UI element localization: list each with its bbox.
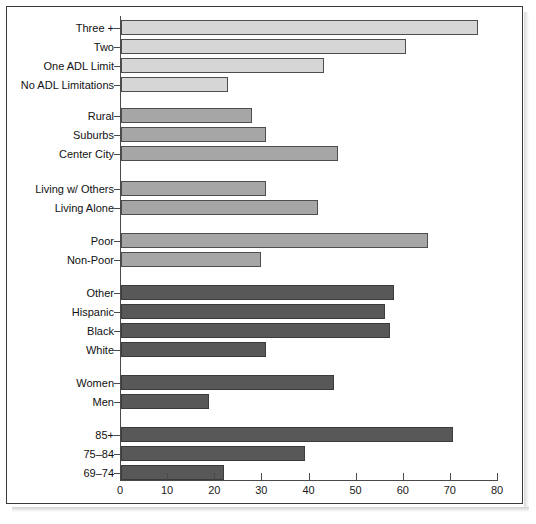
y-axis-tick xyxy=(114,47,120,48)
y-axis-tick xyxy=(114,189,120,190)
y-axis-label: Women xyxy=(2,377,114,389)
y-axis-tick xyxy=(114,154,120,155)
y-axis-label: Poor xyxy=(2,235,114,247)
y-axis-tick xyxy=(114,312,120,313)
x-axis-tick xyxy=(261,473,262,480)
x-axis-tick-label: 30 xyxy=(241,483,281,497)
bar xyxy=(121,146,338,161)
y-axis-tick xyxy=(114,383,120,384)
y-axis-label: Center City xyxy=(2,148,114,160)
x-axis-tick-label: 60 xyxy=(383,483,423,497)
y-axis-label: Black xyxy=(2,325,114,337)
x-axis-tick-label: 40 xyxy=(289,483,329,497)
x-axis-tick xyxy=(167,473,168,480)
x-axis-tick xyxy=(120,473,121,480)
x-axis-tick-label: 70 xyxy=(430,483,470,497)
x-axis-tick xyxy=(356,473,357,480)
x-axis-line xyxy=(120,480,498,481)
x-axis-tick-label: 80 xyxy=(477,483,517,497)
y-axis-label: 75–84 xyxy=(2,448,114,460)
y-axis-tick xyxy=(114,135,120,136)
y-axis-tick xyxy=(114,208,120,209)
chart-figure: Three +TwoOne ADL LimitNo ADL Limitation… xyxy=(0,0,536,524)
y-axis-label: Other xyxy=(2,287,114,299)
bar xyxy=(121,108,252,123)
bar xyxy=(121,304,385,319)
y-axis-tick xyxy=(114,454,120,455)
bar xyxy=(121,323,390,338)
x-axis-tick xyxy=(497,473,498,480)
bar xyxy=(121,446,305,461)
y-axis-label: Rural xyxy=(2,110,114,122)
x-axis-tick xyxy=(450,473,451,480)
y-axis-label: White xyxy=(2,344,114,356)
y-axis-label: Living w/ Others xyxy=(2,183,114,195)
y-axis-tick xyxy=(114,66,120,67)
bar xyxy=(121,233,428,248)
y-axis-tick xyxy=(114,350,120,351)
page-shadow-right xyxy=(524,12,529,507)
bar xyxy=(121,427,453,442)
bar xyxy=(121,58,324,73)
y-axis-tick xyxy=(114,402,120,403)
bar xyxy=(121,375,334,390)
x-axis-tick xyxy=(403,473,404,480)
y-axis-label: One ADL Limit xyxy=(2,60,114,72)
y-axis-tick xyxy=(114,473,120,474)
bar xyxy=(121,77,228,92)
bar xyxy=(121,181,266,196)
y-axis-label: 69–74 xyxy=(2,467,114,479)
y-axis-label: Non-Poor xyxy=(2,254,114,266)
y-axis-tick xyxy=(114,116,120,117)
y-axis-labels: Three +TwoOne ADL LimitNo ADL Limitation… xyxy=(0,0,114,524)
bar xyxy=(121,285,394,300)
bar xyxy=(121,394,209,409)
y-axis-label: Hispanic xyxy=(2,306,114,318)
y-axis-label: Living Alone xyxy=(2,202,114,214)
y-axis-label: Men xyxy=(2,396,114,408)
x-axis-tick-label: 0 xyxy=(100,483,140,497)
bar xyxy=(121,465,224,480)
y-axis-tick xyxy=(114,331,120,332)
y-axis-tick xyxy=(114,260,120,261)
y-axis-label: Two xyxy=(2,41,114,53)
bar xyxy=(121,127,266,142)
x-axis-tick-label: 50 xyxy=(336,483,376,497)
bar xyxy=(121,200,318,215)
x-axis-tick-label: 20 xyxy=(194,483,234,497)
x-axis-tick xyxy=(214,473,215,480)
y-axis-tick xyxy=(114,293,120,294)
y-axis-label: No ADL Limitations xyxy=(2,79,114,91)
y-axis-label: Suburbs xyxy=(2,129,114,141)
bar xyxy=(121,342,266,357)
bar xyxy=(121,252,261,267)
y-axis-label: Three + xyxy=(2,22,114,34)
y-axis-tick xyxy=(114,435,120,436)
y-axis-tick xyxy=(114,241,120,242)
x-axis-tick-label: 10 xyxy=(147,483,187,497)
y-axis-tick xyxy=(114,28,120,29)
bar xyxy=(121,20,478,35)
y-axis-tick xyxy=(114,85,120,86)
bar xyxy=(121,39,406,54)
x-axis-tick xyxy=(309,473,310,480)
y-axis-label: 85+ xyxy=(2,429,114,441)
